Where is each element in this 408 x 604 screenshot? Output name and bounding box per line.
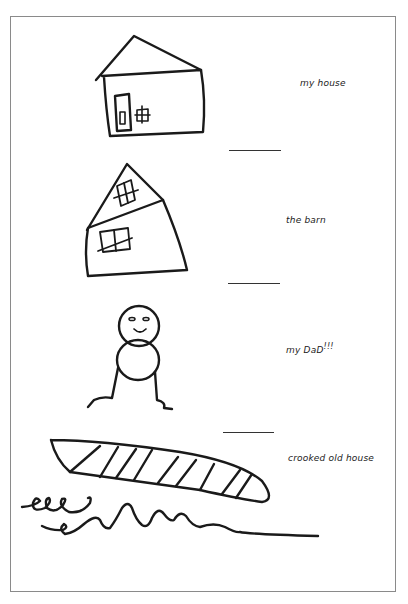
separator-2	[228, 283, 280, 284]
label-my-dad: my DaD!!!	[286, 342, 334, 355]
separator-3	[223, 432, 274, 433]
label-my-dad-text: my DaD	[286, 345, 324, 355]
label-my-house: my house	[300, 78, 346, 88]
label-my-dad-exclaim: !!!	[324, 342, 334, 351]
label-the-barn: the barn	[286, 215, 326, 225]
label-crooked-old-house: crooked old house	[288, 453, 374, 463]
waves-drawing	[22, 498, 318, 536]
stick-figure-drawing	[88, 306, 172, 409]
barn-drawing	[86, 164, 187, 276]
separator-1	[229, 150, 281, 151]
drawings-canvas	[0, 0, 408, 604]
house-drawing	[96, 36, 204, 136]
boat-drawing	[51, 440, 269, 502]
